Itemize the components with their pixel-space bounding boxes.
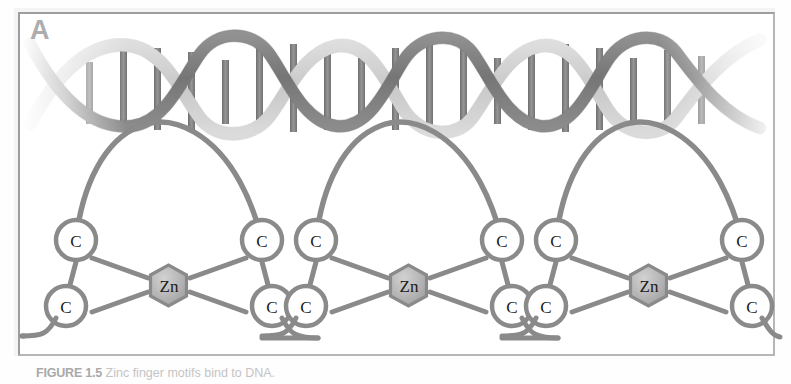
cysteine-label: C	[266, 298, 277, 317]
zinc-finger-unit-2: Zn C C C C	[262, 122, 558, 338]
figure-caption: FIGURE 1.5 Zinc finger motifs bind to DN…	[36, 366, 776, 381]
backbone-tail-right	[762, 318, 780, 337]
cysteine-label: C	[550, 232, 561, 251]
dna-double-helix	[30, 36, 760, 134]
zinc-finger-unit-1: Zn C C C C	[22, 122, 318, 338]
cysteine-label: C	[736, 232, 747, 251]
cysteine-label: C	[70, 232, 81, 251]
finger-loop-backbone	[556, 122, 742, 240]
cysteine-label: C	[506, 298, 517, 317]
zinc-finger-unit-3: Zn C C C C	[502, 122, 780, 337]
cysteine-label: C	[496, 232, 507, 251]
cysteine-label: C	[60, 298, 71, 317]
interunit-backbone-connectors	[22, 336, 558, 338]
cysteine-label: C	[256, 232, 267, 251]
zinc-label: Zn	[400, 277, 419, 296]
cysteine-label: C	[310, 232, 321, 251]
figure-container: A	[0, 0, 791, 384]
zinc-label: Zn	[640, 277, 659, 296]
finger-loop-backbone	[316, 122, 502, 240]
caption-title: FIGURE 1.5	[36, 366, 102, 380]
cysteine-label: C	[746, 298, 757, 317]
zinc-finger-dna-diagram: Zn C C C C Zn	[0, 0, 791, 384]
cysteine-label: C	[300, 298, 311, 317]
cysteine-label: C	[540, 298, 551, 317]
caption-body: Zinc finger motifs bind to DNA.	[106, 366, 276, 380]
zinc-label: Zn	[160, 277, 179, 296]
